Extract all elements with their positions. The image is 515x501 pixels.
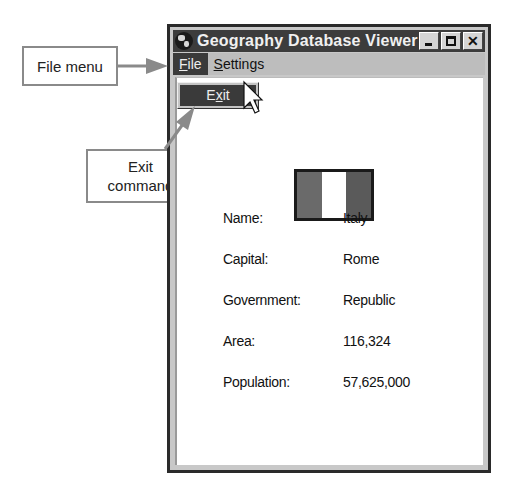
menu-settings[interactable]: Settings	[208, 53, 271, 75]
field-capital-label: Capital:	[223, 251, 343, 267]
window-title: Geography Database Viewer	[197, 32, 418, 50]
exit-mnemonic: x	[216, 87, 223, 103]
field-name-label: Name:	[223, 210, 343, 226]
globe-icon[interactable]	[175, 32, 193, 50]
menu-bar: File Settings	[173, 53, 485, 75]
menu-item-exit[interactable]: Exit	[180, 85, 256, 106]
arrow-file-menu	[118, 58, 168, 74]
menu-file-label: ile	[188, 56, 202, 72]
callout-exit-line2: command	[108, 176, 174, 195]
maximize-button[interactable]	[441, 32, 461, 50]
field-area-value: 116,324	[343, 333, 390, 349]
field-capital-value: Rome	[343, 251, 379, 267]
close-button[interactable]: ✕	[463, 32, 483, 50]
exit-label-pre: E	[206, 87, 215, 103]
menu-settings-mnemonic: S	[214, 56, 223, 72]
exit-label-post: it	[223, 87, 230, 103]
close-icon: ✕	[467, 33, 479, 49]
title-bar[interactable]: Geography Database Viewer ✕	[173, 30, 485, 52]
file-menu-dropdown: Exit	[177, 82, 259, 109]
minimize-button[interactable]	[419, 32, 439, 50]
field-area-label: Area:	[223, 333, 343, 349]
menu-settings-label: ettings	[223, 56, 264, 72]
client-area: Name: Italy Capital: Rome Government: Re…	[175, 77, 483, 465]
field-government-label: Government:	[223, 292, 343, 308]
callout-exit-line1: Exit	[108, 157, 174, 176]
callout-file-menu-text: File menu	[37, 57, 103, 76]
field-government-value: Republic	[343, 292, 395, 308]
app-window: Geography Database Viewer ✕ File Setting…	[167, 24, 491, 473]
field-population-value: 57,625,000	[343, 374, 410, 390]
field-population-label: Population:	[223, 374, 343, 390]
callout-file-menu: File menu	[22, 46, 118, 86]
field-name-value: Italy	[343, 210, 367, 226]
menu-file[interactable]: File	[173, 53, 208, 75]
menu-file-mnemonic: F	[179, 56, 188, 72]
